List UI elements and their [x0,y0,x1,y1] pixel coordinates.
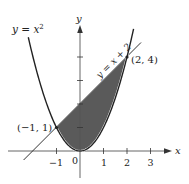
point-b-label: (2, 4) [131,54,158,65]
y-axis-label: y [75,13,82,24]
chart: y = x2 y = x + 2 (−1, 1) (2, 4) x y −1 0… [0,0,189,184]
tick-label-3: 3 [148,157,154,168]
tick-label-minus1: −1 [49,157,63,168]
tick-label-2: 2 [124,157,130,168]
x-axis-arrow-icon [164,148,172,154]
tick-label-1: 1 [101,157,107,168]
y-axis-arrow-icon [77,25,83,33]
shaded-region [57,57,128,151]
x-axis-label: x [175,145,181,156]
point-a-label: (−1, 1) [17,122,52,133]
curve-label: y = x2 [11,23,44,35]
tick-label-0: 0 [72,155,78,166]
point-minus1-1 [55,126,58,129]
